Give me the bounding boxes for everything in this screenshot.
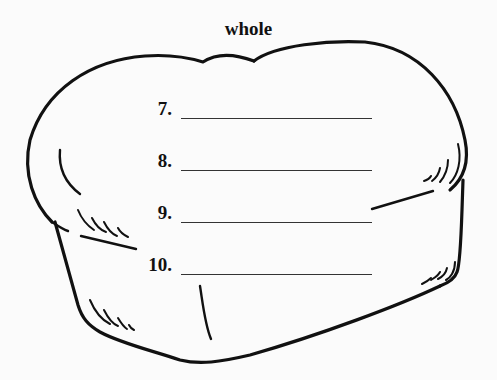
item-number: 10. [132,254,172,276]
item-number: 8. [132,150,172,172]
answer-blank[interactable] [181,222,372,223]
answer-row: 8. [0,150,497,174]
answer-row: 7. [0,98,497,122]
answer-blank[interactable] [181,170,372,171]
answer-blank[interactable] [181,118,372,119]
answer-row: 9. [0,202,497,226]
answer-row: 10. [0,254,497,278]
item-number: 9. [132,202,172,224]
answer-blank[interactable] [181,274,372,275]
bread-loaf-illustration [0,0,497,380]
item-number: 7. [132,98,172,120]
